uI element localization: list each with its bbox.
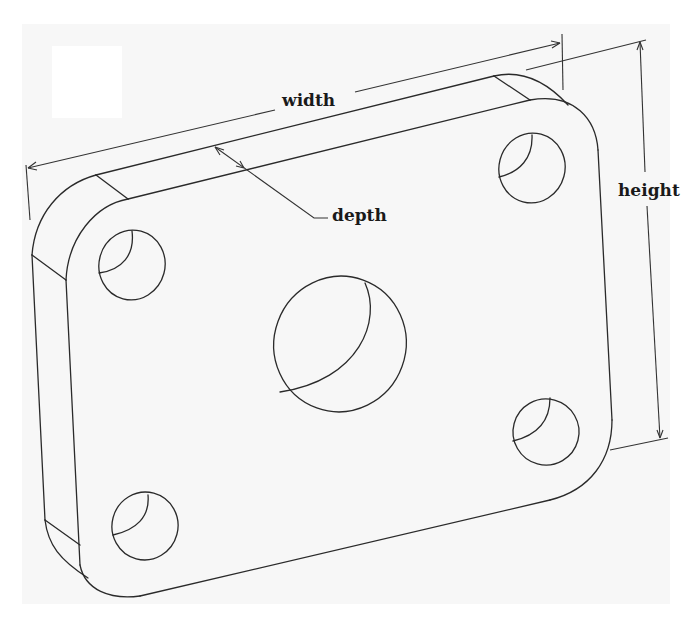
hole-center — [255, 258, 426, 431]
depth-leader — [215, 147, 328, 218]
height-dimension — [526, 40, 668, 450]
hole-top-right — [491, 126, 573, 211]
hole-top-left — [91, 223, 173, 308]
drawing-canvas: width depth height — [0, 0, 694, 618]
plate-back-face — [32, 74, 568, 578]
plate-front-face — [66, 99, 612, 597]
height-label: height — [618, 180, 680, 200]
hole-bottom-right — [506, 392, 587, 473]
width-label: width — [282, 90, 335, 110]
width-dimension — [26, 34, 563, 220]
plate-drawing — [0, 0, 694, 618]
hole-bottom-left — [104, 485, 185, 568]
depth-label: depth — [332, 205, 387, 225]
plate-depth-edges — [32, 76, 530, 545]
